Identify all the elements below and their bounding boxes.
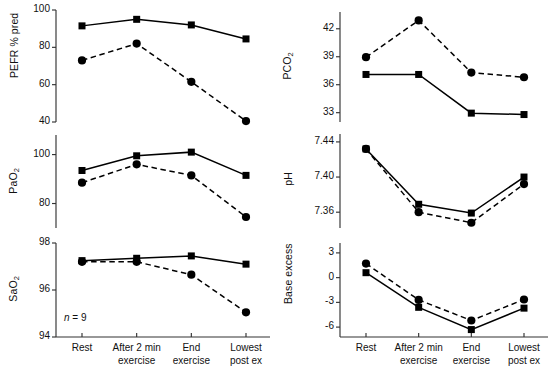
data-point-circle <box>415 296 423 304</box>
data-point-circle <box>362 260 370 268</box>
plot-area <box>272 0 545 378</box>
plot-area <box>0 0 272 378</box>
data-point-circle <box>78 258 86 266</box>
data-point-square <box>243 261 250 268</box>
data-point-square <box>468 326 475 333</box>
left-column: 406080100PEFR % pred 80100PaO2 949698Res… <box>0 0 272 378</box>
series-line <box>82 256 246 264</box>
data-point-square <box>521 305 528 312</box>
data-point-square <box>363 269 370 276</box>
data-point-circle <box>467 316 475 324</box>
data-point-circle <box>133 258 141 266</box>
y-axis-label: SaO2 <box>7 275 21 303</box>
panel-base-excess: -6-303RestAfter 2 minexerciseEndexercise… <box>272 0 545 378</box>
data-point-circle <box>242 308 250 316</box>
y-axis-label: Base excess <box>282 272 294 304</box>
data-point-circle <box>520 295 528 303</box>
series-line <box>366 264 524 321</box>
panel-sao2: 949698RestAfter 2 minexerciseEndexercise… <box>0 0 272 378</box>
data-point-square <box>188 252 195 259</box>
right-column: 33363942PCO2 7.367.407.44pH -6-303RestAf… <box>272 0 545 378</box>
data-point-circle <box>187 271 195 279</box>
data-point-square <box>415 304 422 311</box>
series-line <box>82 262 246 313</box>
sample-size-annotation: n = 9 <box>64 312 87 323</box>
series-line <box>366 273 524 330</box>
